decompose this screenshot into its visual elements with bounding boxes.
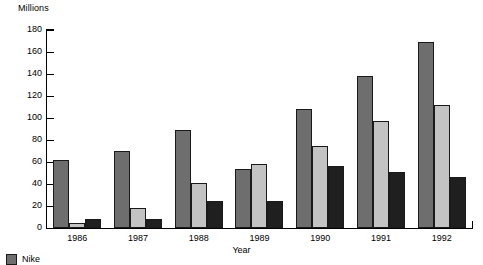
x-axis-tick-label: 1986: [47, 233, 107, 243]
x-axis-tick-label: 1991: [351, 233, 411, 243]
bar-chart: Millions 020406080100120140160180 198619…: [0, 0, 483, 265]
bar-group: [351, 30, 412, 228]
y-axis-tick-label-wrap: 60: [0, 157, 42, 166]
y-axis-tick-label: 80: [2, 135, 42, 144]
y-axis-tick-label-wrap: 20: [0, 201, 42, 210]
y-axis-title: Millions: [18, 3, 49, 13]
bar: [146, 219, 162, 228]
y-axis-tick-label-wrap: 0: [0, 223, 42, 232]
y-axis-tick-label-wrap: 40: [0, 179, 42, 188]
bar: [191, 183, 207, 228]
y-axis-tick-label: 40: [2, 179, 42, 188]
y-axis-tick-label-wrap: 140: [0, 69, 42, 78]
bar: [267, 201, 283, 229]
bar: [450, 177, 466, 228]
bar-group: [411, 30, 472, 228]
bar-group: [168, 30, 229, 228]
bar: [296, 109, 312, 228]
x-axis-title: Year: [0, 245, 483, 255]
x-axis-tick-label: 1990: [290, 233, 350, 243]
x-axis-tick-label: 1987: [108, 233, 168, 243]
bar: [373, 121, 389, 228]
bar: [114, 151, 130, 228]
y-axis-tick-label-wrap: 180: [0, 25, 42, 34]
y-axis-tick-label-wrap: 120: [0, 91, 42, 100]
bar: [328, 166, 344, 228]
y-axis-tick-label: 180: [2, 25, 42, 34]
y-axis-tick-label: 120: [2, 91, 42, 100]
bar-group: [290, 30, 351, 228]
bar-group: [108, 30, 169, 228]
y-axis-tick-label: 20: [2, 201, 42, 210]
y-axis-tick-label-wrap: 160: [0, 47, 42, 56]
bar: [389, 172, 405, 228]
y-axis-tick-label: 60: [2, 157, 42, 166]
bar-group: [47, 30, 108, 228]
bar: [85, 219, 101, 228]
legend-swatch-nike: [6, 254, 17, 265]
y-axis-tick-label-wrap: 80: [0, 135, 42, 144]
bar: [434, 105, 450, 228]
bar-group: [229, 30, 290, 228]
y-axis-tick-label: 140: [2, 69, 42, 78]
bar: [418, 42, 434, 228]
bar: [357, 76, 373, 228]
x-axis-tick-label: 1988: [169, 233, 229, 243]
bar: [175, 130, 191, 228]
bar: [251, 164, 267, 228]
bar: [53, 160, 69, 228]
x-axis-tick-label: 1989: [230, 233, 290, 243]
bar: [130, 208, 146, 228]
bar: [235, 169, 251, 228]
x-axis-right-cap: [472, 221, 473, 229]
bar: [207, 201, 223, 229]
y-axis-tick-label: 160: [2, 47, 42, 56]
plot-area: [47, 30, 472, 228]
x-axis-tick-label: 1992: [412, 233, 472, 243]
bar: [312, 146, 328, 229]
y-axis-tick-label-wrap: 100: [0, 113, 42, 122]
y-axis-tick-label: 0: [2, 223, 42, 232]
y-axis-tick-label: 100: [2, 113, 42, 122]
y-axis-tick: [47, 228, 54, 229]
bar: [69, 223, 85, 229]
chart-legend: Nike: [6, 254, 40, 265]
x-axis-line: [46, 228, 473, 229]
legend-label-nike: Nike: [22, 254, 40, 265]
